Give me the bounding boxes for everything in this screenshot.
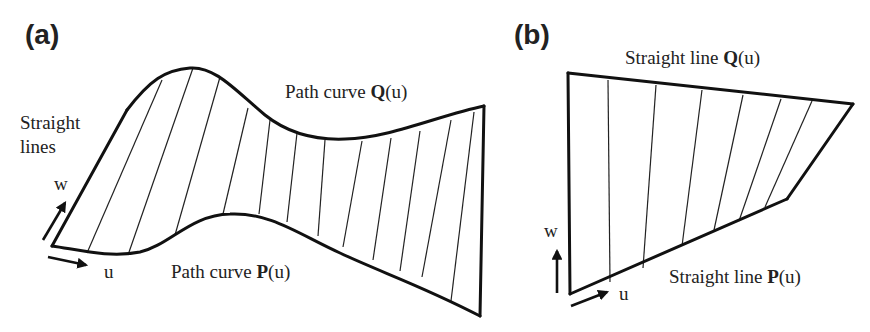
ruled-surface-figure: (a) Straight lines w u Path cur — [0, 0, 870, 332]
panel-b-label: (b) — [514, 19, 550, 50]
panel-b-p-label: Straight line P(u) — [669, 266, 801, 288]
panel-a-u-arrow-icon — [48, 257, 86, 265]
panel-a-w-label: w — [54, 173, 68, 194]
panel-a-straight-label-line2: lines — [20, 136, 56, 157]
panel-a-w-arrow-icon — [43, 203, 65, 240]
panel-b-q-label: Straight line Q(u) — [625, 47, 760, 69]
panel-b-left-edge — [568, 73, 570, 294]
panel-b-w-label: w — [544, 220, 558, 241]
panel-a: (a) Straight lines w u Path cur — [20, 19, 484, 316]
panel-b-rulings — [608, 80, 812, 282]
panel-b: (b) w u Straight line Q(u) Straight line… — [514, 19, 853, 306]
panel-a-u-label: u — [104, 261, 114, 282]
panel-a-label: (a) — [25, 19, 59, 50]
panel-b-right-edge — [787, 104, 853, 199]
panel-a-p-label: Path curve P(u) — [171, 261, 290, 283]
panel-b-u-label: u — [619, 283, 629, 304]
panel-b-line-q — [568, 73, 853, 104]
panel-a-straight-label-line1: Straight — [20, 112, 81, 133]
panel-a-right-straight-line — [480, 106, 484, 316]
panel-a-q-label: Path curve Q(u) — [285, 81, 407, 103]
panel-b-u-arrow-icon — [571, 292, 607, 306]
